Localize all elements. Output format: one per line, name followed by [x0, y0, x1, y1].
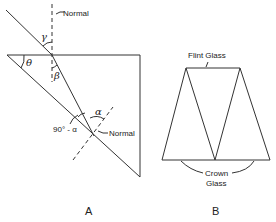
theta-arc	[21, 55, 24, 68]
trapezoid-left-edge	[162, 68, 186, 160]
figure-b	[162, 62, 270, 173]
normal-bottom-label: Normal	[109, 129, 135, 138]
beta-label: β	[53, 70, 60, 81]
normal-top-label: Normal	[63, 9, 89, 18]
beta-arc	[52, 65, 57, 68]
crown-glass-label-line1: Crown	[205, 169, 228, 178]
crown-left-leader	[181, 161, 203, 173]
panel-label-b: B	[212, 205, 219, 217]
crown-glass-label-line2: Glass	[206, 179, 226, 188]
theta-label: θ	[26, 57, 32, 68]
ninety-minus-alpha-label: 90° - α	[53, 125, 77, 134]
alpha-label: α	[95, 106, 102, 117]
gamma-label: γ	[41, 31, 47, 42]
trapezoid-right-edge	[240, 68, 270, 160]
flint-prism-right	[215, 68, 240, 160]
normal-bottom-leader	[98, 131, 108, 133]
crown-right-leader	[232, 161, 254, 173]
refracted-ray	[52, 55, 94, 136]
figure-a	[6, 4, 140, 177]
figure-canvas: Normal Normal γ θ β α 90° - α A Flint Gl…	[0, 0, 276, 222]
flint-prism-left	[186, 68, 215, 160]
flint-leader	[206, 62, 208, 67]
flint-glass-label: Flint Glass	[188, 51, 226, 60]
gamma-arc	[43, 42, 52, 46]
panel-label-a: A	[85, 205, 93, 217]
